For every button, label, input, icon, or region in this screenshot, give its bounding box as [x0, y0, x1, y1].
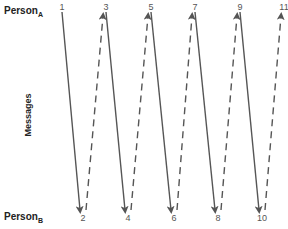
message-arrow-5-to-6 [151, 12, 171, 210]
message-arrow-8-to-9 [221, 16, 237, 210]
message-arrow-10-to-11 [265, 16, 281, 210]
message-arrow-2-to-3 [86, 16, 103, 210]
message-arrow-1-to-2 [62, 12, 80, 210]
message-arrow-3-to-4 [106, 12, 125, 210]
message-arrow-9-to-10 [240, 12, 259, 210]
message-sequence-diagram [0, 0, 288, 229]
message-arrow-4-to-5 [131, 16, 148, 210]
message-arrow-6-to-7 [177, 16, 192, 210]
message-arrow-7-to-8 [195, 12, 215, 210]
